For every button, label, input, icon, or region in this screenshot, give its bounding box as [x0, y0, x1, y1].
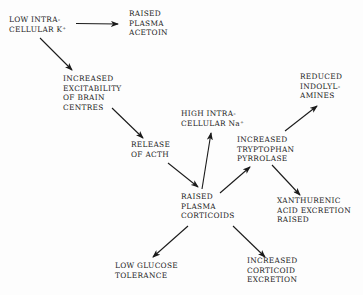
arrow-acth-to-corticoids: [168, 163, 198, 187]
arrow-corticoids-to-high-na: [202, 133, 211, 189]
arrow-tryptophan-to-indolylamines: [285, 106, 317, 131]
node-raised-plasma-acetoin: RAISED PLASMA ACETOIN: [129, 9, 168, 38]
arrow-corticoids-to-glucose: [153, 226, 188, 257]
node-xanthurenic-acid-excretion: XANTHURENIC ACID EXCRETION RAISED: [277, 196, 351, 225]
node-high-intracellular-na: HIGH INTRA- CELLULAR Na⁺: [181, 109, 244, 128]
diagram-canvas: LOW INTRA- CELLULAR K⁺ RAISED PLASMA ACE…: [0, 0, 363, 295]
arrow-tryptophan-to-xanthurenic: [272, 165, 300, 195]
node-low-glucose-tolerance: LOW GLUCOSE TOLERANCE: [115, 261, 178, 280]
arrow-lowk-to-acetoin: [76, 24, 118, 25]
node-increased-corticoid-excretion: INCREASED CORTICOID EXCRETION: [247, 256, 297, 285]
arrow-corticoids-to-corticoid-excretion: [233, 226, 265, 257]
node-low-intracellular-k: LOW INTRA- CELLULAR K⁺: [9, 15, 67, 34]
arrows-layer: [0, 0, 363, 295]
arrow-excitability-to-acth: [112, 108, 143, 138]
node-raised-plasma-corticoids: RAISED PLASMA CORTICOIDS: [181, 192, 235, 221]
arrow-lowk-to-excitability: [40, 38, 72, 70]
node-increased-tryptophan-pyrrolase: INCREASED TRYPTOPHAN PYRROLASE: [237, 135, 294, 164]
node-increased-excitability: INCREASED EXCITABILITY OF BRAIN CENTRES: [63, 74, 122, 112]
node-release-of-acth: RELEASE OF ACTH: [131, 140, 170, 159]
node-reduced-indolylamines: REDUCED INDOLYL- AMINES: [300, 72, 342, 101]
arrow-corticoids-to-tryptophan: [220, 167, 250, 193]
